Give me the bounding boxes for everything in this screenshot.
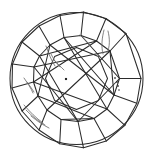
diamond-clarity-plot bbox=[0, 0, 156, 158]
diamond-diagram-svg bbox=[0, 0, 156, 158]
right-pinpoint-3-icon bbox=[117, 85, 119, 87]
center-crystal-icon bbox=[65, 78, 67, 80]
right-pinpoint-4-icon bbox=[118, 89, 119, 90]
right-pinpoint-1-icon bbox=[114, 77, 116, 79]
right-pinpoint-2-icon bbox=[116, 81, 118, 83]
